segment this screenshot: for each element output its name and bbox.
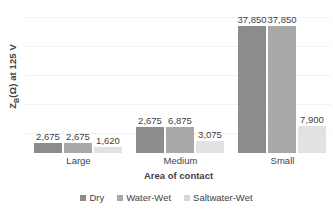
bar-medium-water-wet[interactable] [166,127,194,153]
legend-swatch-water-wet-icon [117,195,123,201]
chart-legend: Dry Water-Wet Saltwater-Wet [0,192,333,203]
plot-area: 2,675 2,675 1,620 2,675 6,875 [26,6,331,153]
legend-label-water-wet: Water-Wet [126,192,171,203]
y-axis-title-prefix: Z [7,102,18,108]
y-axis-title: ZB(Ω) at 125 V [2,0,24,152]
bar-value-label: 37,850 [237,14,266,25]
legend-swatch-dry-icon [80,195,86,201]
bar-large-water-wet[interactable] [64,143,92,153]
legend-label-dry: Dry [89,192,104,203]
x-tick-label-small: Small [235,155,330,166]
legend-item-saltwater-wet[interactable]: Saltwater-Wet [184,192,252,203]
bar-medium-saltwater-wet[interactable] [196,141,224,153]
bar-group-large: 2,675 2,675 1,620 [31,6,126,153]
bar-value-label: 6,875 [168,115,192,126]
bar-value-label: 3,075 [198,129,222,140]
y-axis-title-subscript: B [12,97,19,102]
bar-value-label: 2,675 [138,115,162,126]
bar-value-label: 2,675 [66,131,90,142]
x-axis-tick-labels: Large Medium Small [26,155,331,170]
bar-large-dry[interactable] [34,143,62,153]
legend-item-dry[interactable]: Dry [80,192,104,203]
x-tick-label-large: Large [31,155,126,166]
bar-value-label: 37,850 [267,14,296,25]
bar-value-label: 2,675 [36,131,60,142]
x-axis-title: Area of contact [26,170,331,181]
y-axis-title-text: ZB(Ω) at 125 V [7,44,20,109]
bar-small-saltwater-wet[interactable] [298,126,326,153]
bar-small-dry[interactable] [238,26,266,153]
y-axis-title-suffix: (Ω) at 125 V [7,44,18,98]
bar-group-small: 37,850 37,850 7,900 [235,6,330,153]
bar-group-medium: 2,675 6,875 3,075 [133,6,228,153]
bar-large-saltwater-wet[interactable] [94,147,122,153]
bar-medium-dry[interactable] [136,127,164,153]
bar-small-water-wet[interactable] [268,26,296,153]
legend-label-saltwater-wet: Saltwater-Wet [193,192,252,203]
bar-chart: ZB(Ω) at 125 V 2,675 2,675 1,620 [0,0,333,215]
legend-swatch-saltwater-wet-icon [184,195,190,201]
legend-item-water-wet[interactable]: Water-Wet [117,192,171,203]
x-tick-label-medium: Medium [133,155,228,166]
bar-value-label: 1,620 [96,135,120,146]
bar-value-label: 7,900 [300,114,324,125]
